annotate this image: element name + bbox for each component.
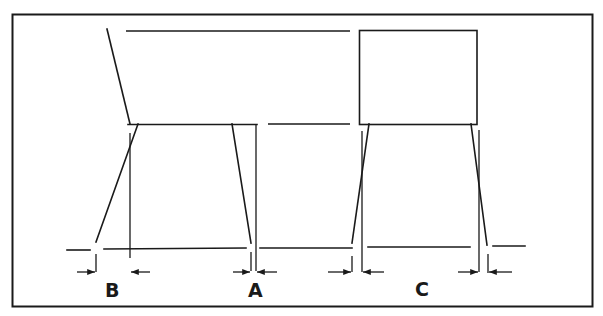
diagram-frame: [13, 15, 593, 307]
label-c: C: [415, 278, 429, 300]
side-view: B A: [67, 29, 352, 301]
front-view-seat-box: [360, 31, 478, 125]
label-b: B: [105, 279, 119, 301]
chair-splay-diagram: B A C: [0, 0, 603, 316]
front-leg-side: [96, 124, 138, 242]
backrest-line: [107, 29, 130, 124]
rear-leg-side: [232, 124, 251, 243]
ground-line: [104, 248, 246, 249]
front-view: C: [328, 31, 525, 301]
label-a: A: [248, 279, 263, 301]
front-left-leg: [352, 124, 369, 243]
